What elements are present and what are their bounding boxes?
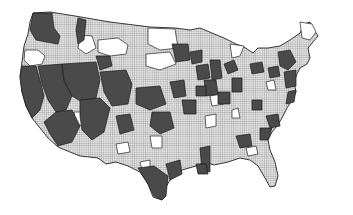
- us-region-map: [0, 0, 353, 215]
